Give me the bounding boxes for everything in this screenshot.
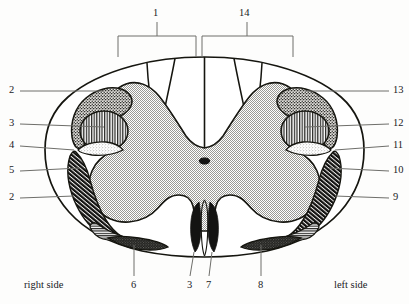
bracket-14-shape	[202, 36, 293, 57]
label-bottom-7: 7	[206, 280, 211, 291]
label-left-2-upper: 2	[9, 85, 14, 96]
bracket-label-14: 14	[239, 8, 250, 19]
label-bottom-6: 6	[131, 280, 136, 291]
label-right-11: 11	[393, 140, 403, 151]
bracket-label-1: 1	[153, 8, 158, 19]
label-bottom-8: 8	[258, 280, 263, 291]
orientation-label-left-side: left side	[334, 279, 368, 290]
label-left-5: 5	[9, 165, 14, 176]
label-right-10: 10	[393, 165, 404, 176]
central-canal	[199, 158, 209, 164]
bracket-1-shape	[118, 36, 196, 57]
top-brackets-group	[118, 22, 293, 57]
label-left-3: 3	[9, 118, 14, 129]
label-bottom-3: 3	[187, 280, 192, 291]
label-left-2-lower: 2	[9, 192, 14, 203]
label-left-4: 4	[9, 140, 14, 151]
label-right-13: 13	[393, 85, 404, 96]
figure-canvas: 1 14 2 3 4 5 2 13 12 11 10 9 6 3 7 8 rig…	[0, 0, 409, 304]
orientation-label-right-side: right side	[24, 279, 63, 290]
label-right-12: 12	[393, 118, 404, 129]
label-right-9: 9	[393, 192, 398, 203]
spinal-cord-diagram	[0, 0, 409, 304]
